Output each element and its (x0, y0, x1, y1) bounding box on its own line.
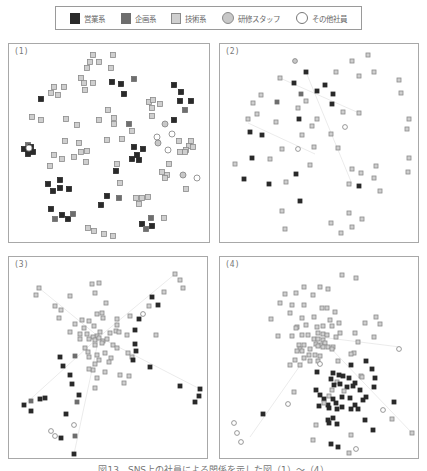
network-panel-3: (3) (8, 256, 208, 459)
tech-node (300, 133, 304, 137)
sales-node (336, 445, 340, 449)
tech-node (140, 196, 145, 201)
other-employee-node (26, 145, 32, 151)
sales-node (29, 409, 33, 413)
tech-node (334, 335, 338, 339)
tech-node (56, 93, 61, 98)
sales-node (347, 376, 351, 380)
tech-node (103, 351, 107, 355)
tech-node (374, 164, 378, 168)
tech-node (178, 278, 182, 282)
tech-node (87, 319, 91, 323)
tech-node (98, 330, 102, 334)
sales-node (72, 452, 76, 456)
tech-node (280, 147, 284, 151)
tech-node (105, 138, 110, 143)
tech-node (85, 332, 89, 336)
tech-node (151, 98, 156, 103)
tech-node (360, 375, 364, 379)
tech-node (347, 451, 351, 455)
sales-node (248, 130, 252, 134)
other-employee-node (232, 421, 237, 426)
tech-node (34, 293, 38, 297)
sales-node (340, 395, 344, 399)
tech-node (87, 355, 91, 359)
panel-label: (3) (14, 260, 28, 269)
tech-node (322, 401, 326, 405)
tech-node (90, 282, 94, 286)
tech-node (308, 163, 312, 167)
tech-node (104, 301, 108, 305)
sales-node (373, 376, 377, 380)
sales-node (371, 428, 375, 432)
sales-node (179, 90, 184, 95)
tech-node (111, 343, 115, 347)
sales-node (51, 189, 56, 194)
tech-node (325, 306, 329, 310)
sales-node (132, 145, 137, 150)
tech-node (85, 149, 90, 154)
sales-node (67, 187, 72, 192)
tech-node (128, 314, 132, 318)
tech-node (316, 344, 320, 348)
tech-node (111, 234, 116, 239)
planning-node (71, 212, 76, 217)
tech-node (79, 76, 84, 81)
tech-node (52, 85, 57, 90)
tech-node (340, 273, 344, 277)
tech-node (333, 310, 337, 314)
tech-node (308, 347, 312, 351)
tech-node (109, 356, 113, 360)
tech-node (68, 330, 72, 334)
tech-node (372, 335, 376, 339)
tech-node (233, 162, 237, 166)
tech-node (97, 336, 101, 340)
sales-node (99, 203, 104, 208)
sales-node (317, 404, 321, 408)
tech-node (147, 304, 151, 308)
sales-node (315, 370, 319, 374)
planning-node (183, 108, 188, 113)
tech-node (336, 359, 340, 363)
tech-node (91, 81, 96, 86)
figure-caption: 図13 SNS上の社員による関係を示した図（1）〜（4） (0, 464, 427, 471)
trainer-node (162, 121, 168, 127)
tech-node (300, 316, 304, 320)
tech-node (338, 331, 342, 335)
sales-node (178, 384, 182, 388)
sales-node (267, 182, 271, 186)
sales-node (119, 82, 124, 87)
tech-node (293, 358, 297, 362)
network-graph (220, 257, 418, 458)
tech-node (111, 53, 116, 58)
network-graph (9, 257, 207, 458)
tech-node (112, 116, 117, 121)
tech-node (125, 333, 129, 337)
tech-node (406, 170, 410, 174)
tech-node (154, 333, 158, 337)
other-employee-node (286, 402, 291, 407)
sales-node (292, 81, 296, 85)
tech-node (349, 433, 353, 437)
other-employee-node (397, 347, 402, 352)
tech-node (52, 153, 57, 158)
tech-node (357, 111, 361, 115)
tech-node (53, 304, 57, 308)
tech-node (49, 91, 54, 96)
tech-node (390, 417, 394, 421)
sales-node (364, 395, 368, 399)
tech-node (93, 291, 97, 295)
tech-node (347, 182, 351, 186)
tech-node (329, 221, 333, 225)
sales-node (178, 99, 183, 104)
network-graph (9, 44, 209, 242)
tech-node (59, 308, 63, 312)
tech-node (311, 293, 315, 297)
tech-node (178, 150, 183, 155)
other-employee-node (318, 362, 323, 367)
tech-node (86, 226, 91, 231)
other-employee-node (141, 312, 146, 317)
planning-node (117, 196, 122, 201)
tech-node (330, 388, 334, 392)
tech-node (316, 331, 320, 335)
